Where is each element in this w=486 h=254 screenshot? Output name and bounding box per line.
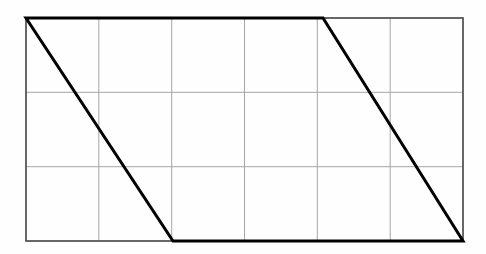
geometry-diagram <box>0 0 486 254</box>
figure-container <box>0 0 486 254</box>
canvas-background <box>0 0 486 254</box>
